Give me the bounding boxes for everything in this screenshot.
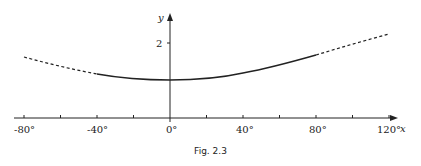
figure-caption: Fig. 2.3 (0, 146, 421, 156)
x-tick-label: 40° (236, 124, 254, 135)
x-tick-label: -40° (87, 124, 108, 135)
curve-solid (97, 55, 316, 80)
y-axis-arrow-icon (167, 13, 173, 21)
x-tick-label: 0° (166, 124, 177, 135)
y-axis-label: y (157, 12, 164, 23)
chart: 2 y x -80° -40° 0° 40° 80° 120° (0, 0, 421, 166)
y-tick-label-2: 2 (156, 38, 162, 49)
x-axis-arrow-icon (390, 115, 398, 121)
x-tick-label: -80° (14, 124, 35, 135)
curve-dashed-left (24, 57, 97, 74)
x-tick-label: 80° (309, 124, 327, 135)
curve-dashed-right (316, 34, 389, 55)
x-tick-label: 120° (377, 124, 401, 135)
